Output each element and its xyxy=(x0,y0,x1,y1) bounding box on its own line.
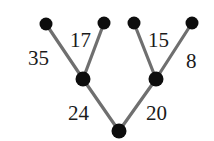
node-leaf-3 xyxy=(128,17,141,30)
edge-weight-label-15: 15 xyxy=(148,30,169,51)
node-leaf-4 xyxy=(186,17,199,30)
edge-weight-label-35: 35 xyxy=(28,48,49,69)
edge-weight-label-17: 17 xyxy=(70,30,91,51)
edge-weight-label-24: 24 xyxy=(68,103,89,124)
tree-diagram: 35 17 15 8 24 20 xyxy=(0,0,214,141)
edge-weight-label-8: 8 xyxy=(186,51,197,72)
edge-weight-label-20: 20 xyxy=(146,103,167,124)
node-internal-right xyxy=(149,72,164,87)
tree-graphics xyxy=(0,0,214,141)
node-group xyxy=(40,17,199,139)
node-leaf-2 xyxy=(98,17,111,30)
node-internal-left xyxy=(76,72,91,87)
node-root xyxy=(112,124,127,139)
node-leaf-1 xyxy=(40,18,53,31)
